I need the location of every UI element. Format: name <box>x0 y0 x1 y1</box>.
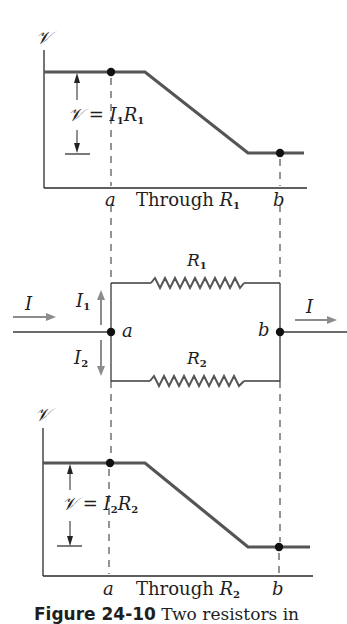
bottom-y-axis-label: 𝒱 <box>35 406 50 424</box>
i2-sub: 2 <box>81 358 88 369</box>
top-point-a-label: a <box>105 191 116 209</box>
bottom-point-b-dot <box>275 543 283 551</box>
r2-letter: R <box>187 348 200 368</box>
top-annot-I-sub: 1 <box>117 115 124 126</box>
r1-sub: 1 <box>200 260 207 271</box>
top-annot-R: R <box>124 104 138 125</box>
top-x-label-R-sub: 1 <box>233 200 240 211</box>
figure-caption-text: Two resistors in <box>161 604 299 624</box>
branch2-current-arrowhead-icon <box>97 366 105 376</box>
top-point-b-dot <box>276 149 284 157</box>
figure-number: Figure 24-10 <box>34 604 156 624</box>
top-point-a-dot <box>107 68 115 76</box>
bottom-point-a-dot <box>106 459 114 467</box>
top-x-label-R: R <box>219 189 233 210</box>
bottom-point-a-label: a <box>103 580 114 598</box>
node-a-label: a <box>122 322 133 340</box>
bottom-voltage-annotation: 𝒱 = I2R2 <box>62 495 138 515</box>
resistor-r2-label: R2 <box>187 350 207 369</box>
bottom-arrowhead-down-icon <box>67 536 73 546</box>
bottom-x-axis-label: Through R2 <box>136 580 240 600</box>
bottom-arrowhead-up-icon <box>67 464 73 474</box>
branch1-current-label: I1 <box>76 292 90 312</box>
input-current-arrowhead-icon <box>46 313 56 321</box>
node-b-dot <box>276 328 284 336</box>
input-current-label: I <box>25 295 32 313</box>
r2-sub: 2 <box>200 358 207 369</box>
top-arrowhead-down-icon <box>74 143 80 153</box>
i1-sub: 1 <box>83 301 90 312</box>
bottom-point-b-label: b <box>272 580 284 598</box>
top-y-axis-label: 𝒱 <box>36 29 51 47</box>
bottom-x-label-R: R <box>219 578 233 599</box>
top-annot-I: I <box>110 104 117 125</box>
resistor-r1-label: R1 <box>187 252 207 271</box>
top-arrowhead-up-icon <box>74 73 80 83</box>
branch1-current-arrowhead-icon <box>97 290 105 300</box>
output-current-arrowhead-icon <box>327 316 337 324</box>
top-annot-lhs: 𝒱 = <box>68 104 110 125</box>
resistor-r1-icon <box>151 278 244 288</box>
top-x-label-text: Through <box>136 189 219 210</box>
bottom-annot-I-sub: 2 <box>111 504 118 515</box>
bottom-annot-lhs: 𝒱 = <box>62 493 104 514</box>
bottom-annot-R: R <box>118 493 132 514</box>
branch2-current-label: I2 <box>74 349 88 369</box>
top-x-axis-label: Through R1 <box>136 191 240 211</box>
top-voltage-annotation: 𝒱 = I1R1 <box>68 106 144 126</box>
figure-caption: Figure 24-10 Two resistors in <box>34 604 299 624</box>
bottom-annot-R-sub: 2 <box>131 504 138 515</box>
node-a-dot <box>107 328 115 336</box>
bottom-annot-I: I <box>104 493 111 514</box>
top-point-b-label: b <box>273 191 285 209</box>
resistor-r2-icon <box>150 376 244 386</box>
bottom-x-label-R-sub: 2 <box>233 589 240 600</box>
r1-letter: R <box>187 250 200 270</box>
output-current-label: I <box>306 298 313 316</box>
node-b-label: b <box>258 321 270 339</box>
top-annot-R-sub: 1 <box>137 115 144 126</box>
bottom-x-label-text: Through <box>136 578 219 599</box>
